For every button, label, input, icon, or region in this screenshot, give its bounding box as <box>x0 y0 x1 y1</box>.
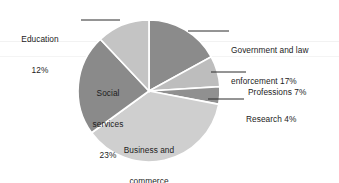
slice-label-research: Research 4% <box>246 93 337 145</box>
pie-chart: Education 12% Government and law enforce… <box>0 0 339 183</box>
slice-label-social-services-line1: Social <box>80 88 136 98</box>
slice-label-government-line1: Government and law <box>231 45 337 55</box>
slice-label-business-line2: commerce <box>104 176 194 183</box>
slice-label-research-text: Research 4% <box>246 114 337 124</box>
slice-label-business-line1: Business and <box>104 145 194 155</box>
slice-label-education: Education 12% <box>2 13 78 96</box>
slice-label-education-name: Education <box>2 34 78 44</box>
slice-label-education-value: 12% <box>2 65 78 75</box>
slice-label-business-and-commerce: Business and commerce 37% <box>104 124 194 183</box>
